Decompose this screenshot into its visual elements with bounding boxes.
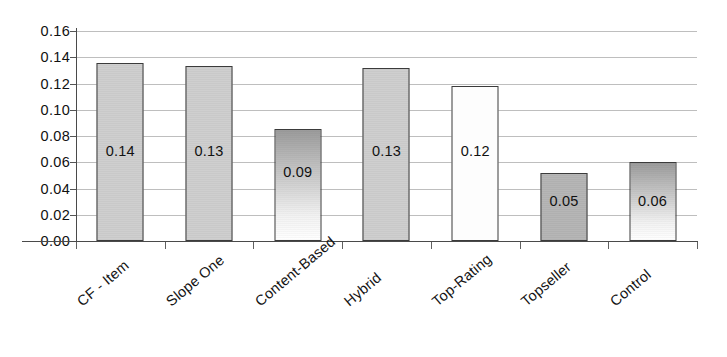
bar[interactable]	[452, 86, 499, 241]
x-axis-category-label: CF - Item	[74, 257, 132, 309]
plot-area: 0.140.130.090.130.120.050.06	[76, 31, 697, 241]
y-axis-tick-label: 0.16	[24, 23, 70, 39]
x-axis-category-label: Content-Based	[252, 233, 338, 309]
bar[interactable]	[274, 129, 321, 241]
x-axis-category-label: Top-Rating	[429, 251, 495, 310]
x-axis-category-label: Slope One	[163, 252, 227, 309]
x-axis-category-labels: CF - ItemSlope OneContent-BasedHybridTop…	[0, 241, 727, 357]
y-axis-tick-label: 0.14	[24, 49, 70, 65]
bar-group: 0.09	[253, 31, 342, 241]
y-axis-tick-label: 0.12	[24, 76, 70, 92]
bar-value-label: 0.09	[283, 164, 312, 180]
bar-group: 0.06	[608, 31, 697, 241]
bar-value-label: 0.13	[195, 143, 224, 159]
bar-group: 0.14	[76, 31, 165, 241]
y-axis-tick-label: 0.04	[24, 181, 70, 197]
y-axis-tick-label: 0.10	[24, 102, 70, 118]
x-axis-category-label: Hybrid	[341, 269, 384, 309]
bar-value-label: 0.14	[106, 143, 135, 159]
x-axis-category-label: Topseller	[518, 259, 574, 310]
bar-group: 0.13	[342, 31, 431, 241]
bar-group: 0.12	[431, 31, 520, 241]
bar-group: 0.13	[165, 31, 254, 241]
bar-value-label: 0.06	[638, 193, 667, 209]
y-axis-tick-label: 0.08	[24, 128, 70, 144]
bar-value-label: 0.12	[461, 143, 490, 159]
bar-value-label: 0.05	[549, 193, 578, 209]
bar-group: 0.05	[520, 31, 609, 241]
y-axis-tick-label: 0.06	[24, 154, 70, 170]
bar-value-label: 0.13	[372, 143, 401, 159]
bar-chart: 0.160.140.120.100.080.060.040.020.00 0.1…	[0, 0, 727, 357]
x-axis-category-label: Control	[607, 266, 654, 309]
y-axis-tick-label: 0.02	[24, 207, 70, 223]
